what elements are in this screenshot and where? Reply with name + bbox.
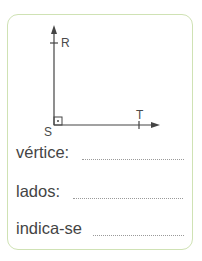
sides-answer-line[interactable]: [73, 198, 183, 199]
notation-label: indica-se: [16, 219, 82, 238]
notation-answer-line[interactable]: [93, 235, 184, 236]
vertex-label: vértice:: [16, 143, 69, 162]
point-label-t: T: [136, 108, 143, 122]
point-label-s: S: [44, 125, 52, 139]
vertex-answer-line[interactable]: [82, 159, 184, 160]
point-label-r: R: [61, 36, 70, 50]
right-angle-dot-icon: [57, 120, 59, 122]
arrowhead-right-icon: [151, 122, 160, 128]
sides-label: lados:: [16, 182, 60, 201]
arrowhead-up-icon: [51, 25, 57, 34]
